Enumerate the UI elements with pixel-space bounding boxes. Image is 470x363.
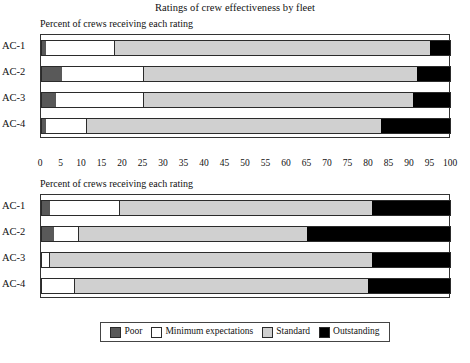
legend-item: Poor: [110, 327, 142, 338]
bar-segment: [430, 41, 450, 55]
panel-subtitle-top: Percent of crews receiving each rating: [40, 18, 193, 29]
bar-segment: [372, 253, 450, 267]
x-tick-label: 100: [443, 158, 457, 168]
legend-item: Standard: [262, 327, 310, 338]
legend-item: Minimum expectations: [151, 327, 253, 338]
x-tick-label: 40: [199, 158, 209, 168]
bar-row: [41, 226, 451, 242]
x-tick-label: 90: [404, 158, 414, 168]
stacked-bar: [41, 66, 451, 82]
bar-row: [41, 278, 451, 294]
stacked-bar: [41, 40, 451, 56]
x-tick-label: 75: [343, 158, 353, 168]
bar-segment: [46, 119, 87, 133]
legend-label: Standard: [276, 327, 310, 337]
bar-segment: [87, 119, 381, 133]
stacked-bar: [41, 226, 451, 242]
bar-segment: [115, 41, 429, 55]
category-label: AC-3: [2, 252, 36, 263]
bar-segment: [50, 201, 119, 215]
bar-segment: [75, 279, 369, 293]
bar-row: [41, 92, 451, 108]
bar-segment: [42, 93, 56, 107]
x-tick-label: 70: [322, 158, 332, 168]
bar-segment: [42, 227, 54, 241]
bar-row: [41, 200, 451, 216]
bar-segment: [42, 279, 75, 293]
legend-label: Minimum expectations: [165, 327, 253, 337]
legend-item: Outstanding: [319, 327, 379, 338]
category-label: AC-2: [2, 226, 36, 237]
x-tick-label: 65: [302, 158, 312, 168]
chart-title: Ratings of crew effectiveness by fleet: [0, 2, 470, 13]
stacked-bar: [41, 92, 451, 108]
bar-row: [41, 252, 451, 268]
category-label: AC-1: [2, 200, 36, 211]
bar-segment: [79, 227, 307, 241]
x-tick-label: 55: [261, 158, 271, 168]
bar-segment: [42, 253, 50, 267]
bar-segment: [42, 201, 50, 215]
x-tick-label: 60: [281, 158, 291, 168]
bar-segment: [50, 253, 372, 267]
bar-segment: [46, 41, 115, 55]
category-label: AC-4: [2, 278, 36, 289]
bar-segment: [144, 67, 417, 81]
chart-figure: Ratings of crew effectiveness by fleet P…: [0, 0, 470, 363]
bar-segment: [56, 93, 144, 107]
legend-swatch-icon: [110, 327, 121, 338]
x-tick-label: 20: [117, 158, 127, 168]
bar-segment: [144, 93, 413, 107]
x-tick-label: 5: [58, 158, 63, 168]
legend-label: Outstanding: [333, 327, 379, 337]
x-tick-label: 80: [363, 158, 373, 168]
legend-label: Poor: [124, 327, 142, 337]
bar-segment: [417, 67, 450, 81]
x-tick-label: 15: [97, 158, 107, 168]
category-label: AC-4: [2, 118, 36, 129]
x-axis-top: 0510152025303540455055606570758085909510…: [40, 158, 450, 172]
x-tick-label: 85: [384, 158, 394, 168]
bar-segment: [307, 227, 450, 241]
x-tick-label: 35: [179, 158, 189, 168]
bar-segment: [381, 119, 450, 133]
legend-swatch-icon: [319, 327, 330, 338]
stacked-bar: [41, 278, 451, 294]
panel-subtitle-bottom: Percent of crews receiving each rating: [40, 178, 193, 189]
stacked-bar: [41, 252, 451, 268]
category-label: AC-2: [2, 66, 36, 77]
bar-row: [41, 66, 451, 82]
bar-segment: [372, 201, 450, 215]
x-tick-label: 0: [38, 158, 43, 168]
x-tick-label: 50: [240, 158, 250, 168]
plot-area-top: [40, 34, 450, 138]
bar-segment: [54, 227, 78, 241]
plot-area-bottom: [40, 194, 450, 298]
stacked-bar: [41, 200, 451, 216]
category-label: AC-3: [2, 92, 36, 103]
stacked-bar: [41, 118, 451, 134]
x-tick-label: 95: [425, 158, 435, 168]
chart-legend: PoorMinimum expectationsStandardOutstand…: [100, 322, 390, 342]
bar-row: [41, 118, 451, 134]
x-tick-label: 25: [138, 158, 148, 168]
x-tick-label: 10: [76, 158, 86, 168]
bar-segment: [62, 67, 144, 81]
bar-segment: [413, 93, 450, 107]
bar-segment: [42, 67, 62, 81]
category-label: AC-1: [2, 40, 36, 51]
bar-segment: [120, 201, 373, 215]
legend-swatch-icon: [262, 327, 273, 338]
x-tick-label: 30: [158, 158, 168, 168]
bar-segment: [368, 279, 450, 293]
legend-swatch-icon: [151, 327, 162, 338]
bar-row: [41, 40, 451, 56]
x-tick-label: 45: [220, 158, 230, 168]
